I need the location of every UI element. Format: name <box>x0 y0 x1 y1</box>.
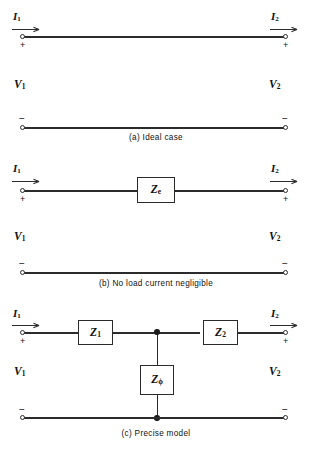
polarity-minus-right-a: − <box>282 114 288 124</box>
current-label-i1-c: I1 <box>13 308 21 320</box>
terminal-output-top-a <box>283 34 288 39</box>
voltage-label-v1-b: V1 <box>14 231 25 243</box>
top-wire-seg1-c <box>24 332 78 334</box>
top-wire-a <box>24 36 285 38</box>
impedance-box-zphi: Zϕ <box>140 365 174 395</box>
terminal-input-top-c <box>20 330 25 335</box>
polarity-plus-left-b: + <box>20 195 25 204</box>
voltage-label-v2-c: V2 <box>269 366 280 378</box>
bottom-wire-c <box>24 417 285 419</box>
impedance-box-z1: Z1 <box>78 320 113 345</box>
voltage-label-v2-a: V2 <box>269 79 280 91</box>
impedance-box-z2: Z2 <box>203 320 238 345</box>
polarity-plus-left-a: + <box>20 41 25 50</box>
polarity-minus-left-b: − <box>19 259 25 269</box>
current-arrow-i2-b <box>270 178 298 184</box>
voltage-label-v1-c: V1 <box>14 366 25 378</box>
top-wire-seg3-c <box>238 332 285 334</box>
voltage-label-v2-b: V2 <box>269 231 280 243</box>
caption-b: (b) No load current negligible <box>0 280 312 288</box>
current-label-i2-b: I2 <box>271 163 279 175</box>
current-arrow-i1-a <box>12 26 40 32</box>
polarity-plus-right-b: + <box>283 195 288 204</box>
polarity-minus-right-b: − <box>282 259 288 269</box>
voltage-label-v1-a: V1 <box>14 79 25 91</box>
shunt-wire-top-c <box>157 333 159 365</box>
terminal-input-bottom-a <box>20 125 25 130</box>
terminal-output-top-c <box>283 330 288 335</box>
terminal-input-top-b <box>20 188 25 193</box>
terminal-output-bottom-c <box>283 415 288 420</box>
terminal-output-top-b <box>283 188 288 193</box>
current-arrow-i2-a <box>270 26 298 32</box>
current-label-i1-b: I1 <box>13 163 21 175</box>
current-arrow-i1-c <box>12 322 40 328</box>
polarity-minus-right-c: − <box>282 405 288 415</box>
polarity-minus-left-a: − <box>19 114 25 124</box>
current-label-i1-a: I1 <box>13 11 21 23</box>
bottom-wire-a <box>24 127 285 129</box>
terminal-input-top-a <box>20 34 25 39</box>
terminal-output-bottom-a <box>283 125 288 130</box>
polarity-plus-right-a: + <box>283 41 288 50</box>
bottom-wire-b <box>24 272 285 274</box>
polarity-plus-right-c: + <box>283 337 288 346</box>
impedance-box-ze: Ze <box>137 177 175 203</box>
figure-canvas: I1 I2 + + V1 V2 − − <box>0 0 312 451</box>
current-arrow-i2-c <box>270 322 298 328</box>
caption-a: (a) Ideal case <box>0 134 312 142</box>
junction-dot-top-c <box>154 329 160 335</box>
current-arrow-i1-b <box>12 178 40 184</box>
terminal-input-bottom-c <box>20 415 25 420</box>
polarity-plus-left-c: + <box>20 337 25 346</box>
caption-c: (c) Precise model <box>0 430 312 438</box>
current-label-i2-c: I2 <box>271 308 279 320</box>
top-wire-left-b <box>24 190 138 192</box>
polarity-minus-left-c: − <box>19 405 25 415</box>
current-label-i2-a: I2 <box>271 11 279 23</box>
top-wire-right-b <box>175 190 285 192</box>
terminal-input-bottom-b <box>20 270 25 275</box>
terminal-output-bottom-b <box>283 270 288 275</box>
